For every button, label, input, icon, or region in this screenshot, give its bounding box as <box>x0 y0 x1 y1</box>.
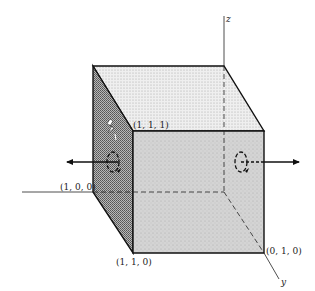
y-axis-label: y <box>280 277 287 287</box>
z-axis-label: z <box>225 14 231 24</box>
vertex-label-010: (0, 1, 0) <box>266 246 302 256</box>
vertex-label-111: (1, 1, 1) <box>133 120 169 130</box>
vertex-label-100: (1, 0, 0) <box>60 182 96 192</box>
y-axis <box>264 253 279 279</box>
cube-diagram: z y (1, 1, 1) (1, 0, 0) (1, 1, 0) (0, 1,… <box>0 0 315 291</box>
vertex-label-110: (1, 1, 0) <box>116 257 152 267</box>
